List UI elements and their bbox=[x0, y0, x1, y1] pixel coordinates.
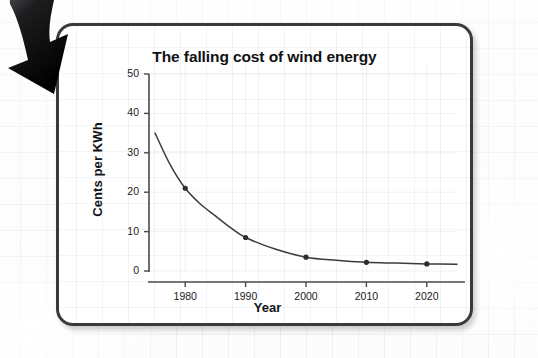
x-axis-title: Year bbox=[59, 300, 476, 315]
chart-card: The falling cost of wind energy 01020304… bbox=[56, 23, 473, 326]
data-point-marker bbox=[424, 261, 429, 266]
y-tick-label: 40 bbox=[107, 106, 139, 118]
y-tick-label: 0 bbox=[107, 264, 139, 276]
plot-area: 01020304050 19801990200020102020 Cents p… bbox=[59, 26, 476, 329]
data-point-marker bbox=[183, 186, 188, 191]
y-tick-label: 30 bbox=[107, 146, 139, 158]
y-axis-title: Cents per KWh bbox=[90, 110, 105, 230]
y-tick-label: 50 bbox=[107, 67, 139, 79]
y-tick-label: 20 bbox=[107, 185, 139, 197]
chart-gridlines bbox=[149, 64, 457, 271]
data-point-marker bbox=[243, 235, 248, 240]
data-point-marker bbox=[303, 255, 308, 260]
y-tick-label: 10 bbox=[107, 225, 139, 237]
data-point-marker bbox=[364, 260, 369, 265]
